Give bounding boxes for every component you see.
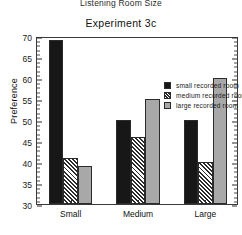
x-tick-label: Medium xyxy=(123,209,153,219)
y-tick-minor xyxy=(37,168,40,169)
y-tick-minor xyxy=(37,84,40,85)
y-tick-minor xyxy=(37,75,40,76)
x-tick-label: Large xyxy=(194,209,216,219)
y-tick-minor xyxy=(37,96,40,97)
y-tick-minor xyxy=(234,197,237,198)
y-tick-label: 70 xyxy=(23,33,32,43)
x-tick-label: Small xyxy=(60,209,81,219)
y-tick-major xyxy=(232,143,237,144)
y-tick-minor xyxy=(37,92,40,93)
legend-item: medium recorded room xyxy=(164,91,242,99)
y-tick-minor xyxy=(37,63,40,64)
legend-item-label: medium recorded room xyxy=(176,92,242,99)
y-tick-minor xyxy=(234,168,237,169)
y-tick-label: 50 xyxy=(23,117,32,127)
y-tick-minor xyxy=(234,42,237,43)
y-tick-minor xyxy=(37,54,40,55)
y-tick-major xyxy=(232,122,237,123)
y-tick-minor xyxy=(37,151,40,152)
y-tick-minor xyxy=(37,117,40,118)
y-tick-minor xyxy=(37,130,40,131)
bar xyxy=(78,166,93,204)
bar xyxy=(116,120,131,204)
y-tick-major xyxy=(37,101,42,102)
y-tick-minor xyxy=(37,189,40,190)
y-tick-minor xyxy=(234,54,237,55)
y-tick-minor xyxy=(234,138,237,139)
x-tick xyxy=(138,200,139,204)
figure-supertitle: Listening Room Size xyxy=(0,0,242,9)
y-tick-minor xyxy=(37,42,40,43)
y-tick-major xyxy=(37,164,42,165)
y-tick-minor xyxy=(234,193,237,194)
y-tick-minor xyxy=(37,50,40,51)
bar xyxy=(49,40,64,204)
y-tick-minor xyxy=(37,147,40,148)
y-tick-label: 45 xyxy=(23,138,32,148)
y-axis-label: Preference xyxy=(9,41,19,161)
y-tick-minor xyxy=(234,147,237,148)
figure-title: Experiment 3c xyxy=(0,17,242,29)
bar xyxy=(184,120,199,204)
legend-item: large recorded room xyxy=(164,101,242,109)
hatched-square-icon xyxy=(164,92,171,99)
y-tick-label: 60 xyxy=(23,75,32,85)
x-tick xyxy=(71,200,72,204)
y-tick-minor xyxy=(234,159,237,160)
y-tick-minor xyxy=(37,180,40,181)
bar xyxy=(145,99,160,204)
black-filled-square-icon xyxy=(164,82,171,89)
y-tick-minor xyxy=(37,201,40,202)
y-tick-major xyxy=(37,143,42,144)
y-tick-minor xyxy=(37,67,40,68)
chart-figure: Listening Room Size Experiment 3c Prefer… xyxy=(0,0,242,235)
bar xyxy=(131,137,146,204)
y-tick-minor xyxy=(234,117,237,118)
y-tick-minor xyxy=(234,189,237,190)
y-tick-minor xyxy=(234,130,237,131)
y-tick-minor xyxy=(37,71,40,72)
y-tick-minor xyxy=(37,197,40,198)
y-tick-minor xyxy=(234,75,237,76)
x-tick xyxy=(205,200,206,204)
y-tick-minor xyxy=(234,151,237,152)
y-tick-minor xyxy=(234,113,237,114)
y-tick-major xyxy=(37,122,42,123)
y-tick-minor xyxy=(234,201,237,202)
y-tick-label: 35 xyxy=(23,180,32,190)
legend-item-label: small recorded room xyxy=(176,82,239,89)
y-tick-minor xyxy=(234,180,237,181)
y-tick-major xyxy=(232,185,237,186)
y-tick-minor xyxy=(234,63,237,64)
y-tick-label: 55 xyxy=(23,96,32,106)
legend-item: small recorded room xyxy=(164,81,242,89)
y-tick-minor xyxy=(37,193,40,194)
gray-filled-square-icon xyxy=(164,102,171,109)
y-tick-minor xyxy=(37,155,40,156)
y-tick-label: 30 xyxy=(23,201,32,211)
y-tick-minor xyxy=(37,176,40,177)
y-tick-major xyxy=(232,164,237,165)
y-tick-minor xyxy=(37,138,40,139)
y-tick-minor xyxy=(234,50,237,51)
y-tick-minor xyxy=(234,172,237,173)
y-tick-minor xyxy=(37,113,40,114)
y-tick-minor xyxy=(37,134,40,135)
y-tick-minor xyxy=(37,46,40,47)
y-tick-minor xyxy=(234,126,237,127)
y-tick-minor xyxy=(234,155,237,156)
y-tick-major xyxy=(37,206,42,207)
y-tick-minor xyxy=(37,105,40,106)
y-tick-minor xyxy=(37,88,40,89)
y-tick-major xyxy=(232,206,237,207)
y-tick-minor xyxy=(234,134,237,135)
y-tick-minor xyxy=(37,159,40,160)
plot-area: 303540455055606570 SmallMediumLarge smal… xyxy=(36,37,238,205)
y-tick-minor xyxy=(234,67,237,68)
y-tick-major xyxy=(37,38,42,39)
y-tick-label: 65 xyxy=(23,54,32,64)
y-tick-major xyxy=(232,59,237,60)
bar xyxy=(63,158,78,204)
y-tick-major xyxy=(37,59,42,60)
legend-item-label: large recorded room xyxy=(176,102,238,109)
